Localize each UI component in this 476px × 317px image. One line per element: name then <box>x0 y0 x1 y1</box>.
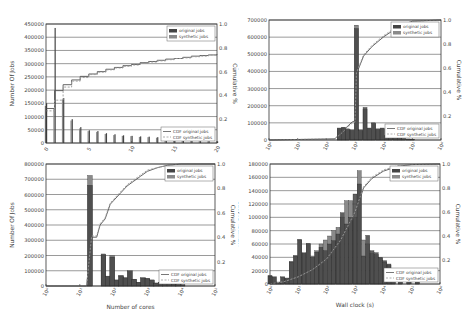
y-tick-label: 120000 <box>248 201 268 207</box>
y-tick-label: 150000 <box>24 100 44 106</box>
y-tick-label: 180000 <box>248 161 268 167</box>
y-right-tick-label: 0.8 <box>219 45 227 51</box>
legend-label: original jobs <box>402 168 428 173</box>
y-tick-label: 700000 <box>247 17 267 23</box>
chart-svg: 0200004000060000800001000001200001400001… <box>238 158 476 317</box>
x-tick-label: 10⁵ <box>210 287 220 298</box>
x-tick-label: 10³ <box>350 141 360 152</box>
bar-original <box>298 239 302 284</box>
y-tick-label: 800000 <box>24 161 44 167</box>
y-right-tick-label: 1.0 <box>442 161 450 167</box>
x-tick-label: 10⁴ <box>176 287 186 298</box>
bar-original <box>114 134 115 143</box>
bar-synthetic <box>139 137 140 143</box>
bar-original <box>302 253 306 284</box>
legend-label: CDF original jobs <box>397 126 432 131</box>
y-right-tick-label: 0.6 <box>443 65 451 71</box>
chart-wallclock-limit: 0100000200000300000400000500000600000700… <box>238 0 476 158</box>
y-tick-label: 140000 <box>248 188 268 194</box>
y-tick-label: 300000 <box>24 237 44 243</box>
x-tick-label: 5 <box>85 146 92 152</box>
bar-original <box>72 119 73 143</box>
y-right-tick-label: 0.4 <box>443 89 452 95</box>
legend-label: original jobs <box>177 168 203 173</box>
y-right-tick-label: 1.0 <box>217 161 225 167</box>
y-tick-label: 160000 <box>248 174 268 180</box>
chart-cores: 0100000200000300000400000500000600000700… <box>0 158 238 317</box>
bar-original <box>362 256 366 284</box>
bar-original <box>119 275 124 286</box>
chart-svg: 0100000200000300000400000500000600000700… <box>0 158 238 317</box>
bar-synthetic <box>96 132 97 143</box>
bar-original <box>349 217 353 284</box>
x-tick-label: 10¹ <box>293 141 303 152</box>
y-tick-label: 80000 <box>251 228 268 234</box>
y-tick-label: 0 <box>41 140 44 146</box>
bar-original <box>374 253 378 284</box>
legend-label: original jobs <box>403 24 429 29</box>
bar-original <box>363 107 367 140</box>
x-tick-label: 10¹ <box>294 285 304 296</box>
bar-synthetic <box>113 135 114 143</box>
y-tick-label: 400000 <box>24 34 44 40</box>
y-tick-label: 100000 <box>24 114 44 120</box>
bar-original <box>141 278 146 286</box>
legend-label: CDF synthetic jobs <box>397 132 436 137</box>
bar-original <box>328 244 332 284</box>
bar-original <box>132 136 133 143</box>
legend-swatch-original <box>169 29 177 33</box>
y-axis-label: Number Of Jobs <box>238 57 239 103</box>
legend-swatch-original <box>393 25 401 29</box>
y-right-tick-label: 0.4 <box>442 233 451 239</box>
legend-label: CDF original jobs <box>173 129 208 134</box>
y-tick-label: 0 <box>264 137 267 143</box>
legend-label: CDF synthetic jobs <box>396 276 435 281</box>
x-tick-label: 10² <box>322 141 332 152</box>
y-tick-label: 0 <box>41 283 44 289</box>
y-tick-label: 200000 <box>24 253 44 259</box>
bar-original <box>145 278 150 286</box>
bar-synthetic <box>147 137 148 143</box>
y-right-tick-label: 0.6 <box>219 69 227 75</box>
bar-original <box>101 254 106 286</box>
y-right-tick-label: 1.0 <box>219 21 227 27</box>
x-tick-label: 10⁵ <box>407 285 417 296</box>
bar-original <box>127 271 132 286</box>
bar-original <box>55 28 56 143</box>
chart-interarrival: 0500001000001500002000002500003000003500… <box>0 0 238 158</box>
x-tick-label: 10⁶ <box>436 141 446 152</box>
legend-swatch-synthetic <box>169 35 177 39</box>
bar-synthetic <box>105 134 106 143</box>
cdf-original-line <box>46 54 217 108</box>
y-tick-label: 200000 <box>247 103 267 109</box>
legend-label: synthetic jobs <box>403 30 432 35</box>
x-tick-label: 10³ <box>350 285 360 296</box>
legend-swatch-original <box>167 169 175 173</box>
y-right-tick-label: 0.6 <box>442 209 450 215</box>
bar-original <box>157 137 158 143</box>
bar-original <box>105 276 110 286</box>
y-tick-label: 350000 <box>24 47 44 53</box>
legend-label: CDF original jobs <box>396 270 431 275</box>
y-tick-label: 600000 <box>24 192 44 198</box>
bar-original <box>149 137 150 143</box>
x-tick-label: 10⁶ <box>435 285 445 296</box>
bar-original <box>306 243 310 284</box>
bar-original <box>80 127 81 143</box>
legend-swatch-synthetic <box>392 175 400 179</box>
x-tick-label: 10³ <box>143 287 153 298</box>
chart-wallclock: 0200004000060000800001000001200001400001… <box>238 158 476 317</box>
legend-label: CDF synthetic jobs <box>171 278 210 283</box>
y-tick-label: 500000 <box>247 51 267 57</box>
x-tick-label: 15 <box>170 145 179 154</box>
bar-original <box>340 213 344 284</box>
legend-swatch-original <box>392 169 400 173</box>
x-axis-label: Number of cores <box>106 304 154 310</box>
bar-synthetic <box>122 136 123 143</box>
y-tick-label: 400000 <box>247 68 267 74</box>
bar-original <box>149 280 154 286</box>
y-tick-label: 0 <box>265 281 268 287</box>
bar-synthetic <box>88 131 89 143</box>
bar-original <box>367 128 371 140</box>
bar-original <box>123 135 124 143</box>
